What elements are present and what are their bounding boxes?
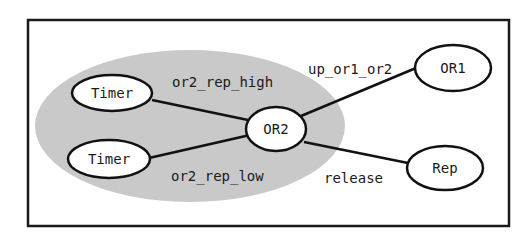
node-or2[interactable]: OR2 bbox=[246, 107, 306, 151]
node-timer-low[interactable]: Timer bbox=[68, 140, 150, 178]
node-rep[interactable]: Rep bbox=[407, 146, 483, 190]
node-label: Timer bbox=[91, 85, 133, 101]
node-label: OR2 bbox=[263, 121, 288, 137]
node-or1[interactable]: OR1 bbox=[415, 45, 491, 91]
node-timer-high[interactable]: Timer bbox=[72, 75, 152, 111]
node-label: Timer bbox=[88, 151, 130, 167]
node-label: OR1 bbox=[440, 60, 465, 76]
node-label: Rep bbox=[432, 160, 457, 176]
edge-label-up-or1-or2: up_or1_or2 bbox=[308, 61, 392, 78]
state-diagram: or2_rep_high or2_rep_low up_or1_or2 rele… bbox=[0, 0, 532, 232]
edge-label-release: release bbox=[324, 170, 383, 186]
edge-label-or2-rep-high: or2_rep_high bbox=[172, 74, 273, 91]
edge-label-or2-rep-low: or2_rep_low bbox=[171, 168, 264, 185]
